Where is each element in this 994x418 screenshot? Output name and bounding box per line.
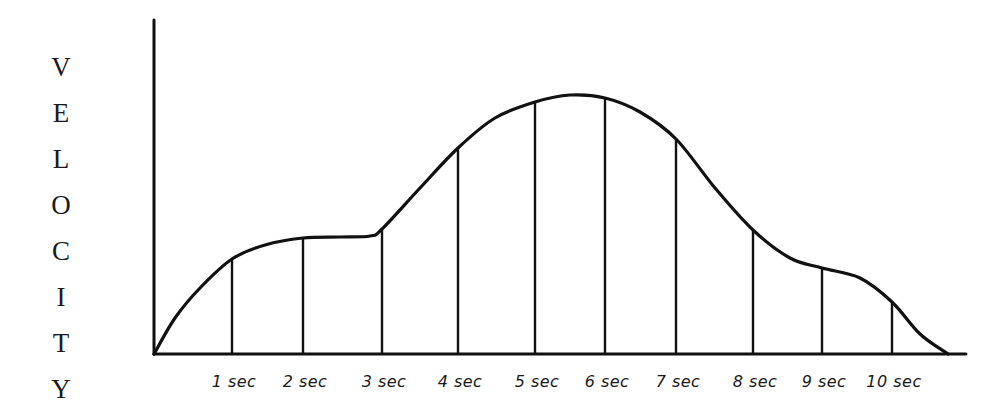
y-label-letter: O	[48, 192, 74, 219]
axes	[154, 20, 966, 354]
drop-lines	[232, 98, 892, 354]
x-tick-label: 7 sec	[656, 372, 701, 391]
y-label-letter: T	[48, 330, 74, 357]
x-tick-label: 6 sec	[585, 372, 630, 391]
x-tick-label: 10 sec	[866, 372, 921, 391]
x-tick-label: 4 sec	[438, 372, 483, 391]
x-tick-label: 8 sec	[733, 372, 778, 391]
y-label-letter: Y	[48, 376, 74, 403]
x-tick-label: 3 sec	[362, 372, 407, 391]
y-label-letter: C	[48, 238, 74, 265]
velocity-chart	[0, 0, 994, 418]
x-tick-label: 2 sec	[283, 372, 328, 391]
x-tick-label: 1 sec	[212, 372, 257, 391]
velocity-curve	[154, 95, 948, 354]
x-tick-label: 5 sec	[515, 372, 560, 391]
y-label-letter: E	[48, 100, 74, 127]
y-label-letter: I	[48, 284, 74, 311]
x-tick-label: 9 sec	[802, 372, 847, 391]
y-label-letter: L	[48, 146, 74, 173]
y-label-letter: V	[48, 54, 74, 81]
